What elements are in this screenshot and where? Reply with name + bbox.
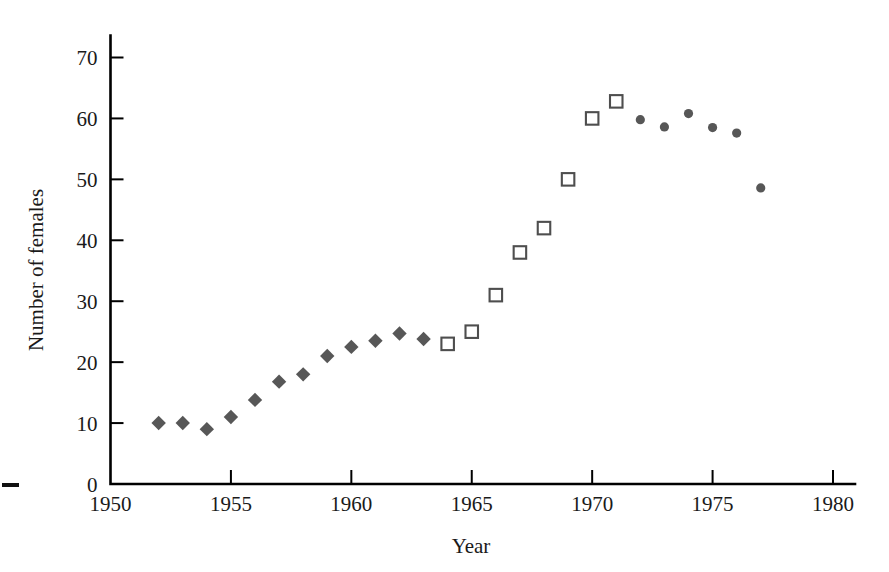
data-point-circle (732, 128, 741, 137)
data-point-square (466, 325, 479, 338)
y-axis-ticks: 010203040506070 (77, 46, 124, 497)
data-point-square (586, 112, 599, 125)
x-axis-label: Year (452, 534, 491, 558)
x-tick-label: 1980 (812, 492, 854, 516)
data-point-circle (636, 115, 645, 124)
y-tick-label: 20 (77, 351, 98, 375)
scan-edge-artifact (2, 483, 19, 487)
data-point-diamond (272, 374, 286, 388)
data-point-diamond (224, 410, 238, 424)
y-tick-label: 60 (77, 107, 98, 131)
data-point-diamond (416, 332, 430, 346)
y-tick-label: 10 (77, 412, 98, 436)
scatter-plot-figure: 010203040506070 195019551960196519701975… (0, 0, 889, 572)
plot-canvas: 010203040506070 195019551960196519701975… (0, 0, 889, 572)
data-point-diamond (176, 416, 190, 430)
x-tick-label: 1970 (571, 492, 613, 516)
x-tick-label: 1950 (90, 492, 132, 516)
data-point-diamond (368, 334, 382, 348)
x-tick-label: 1960 (330, 492, 372, 516)
data-point-diamond (296, 367, 310, 381)
data-point-circle (684, 109, 693, 118)
data-point-diamond (248, 393, 262, 407)
data-point-diamond (200, 422, 214, 436)
data-point-diamond (392, 326, 406, 340)
data-point-diamond (344, 340, 358, 354)
data-point-square (514, 246, 527, 259)
y-tick-label: 40 (77, 229, 98, 253)
data-markers (151, 95, 765, 436)
axis-lines (111, 36, 856, 485)
data-point-square (490, 289, 503, 302)
data-point-square (562, 173, 575, 186)
y-axis-label: Number of females (24, 189, 48, 351)
y-tick-label: 50 (77, 168, 98, 192)
data-point-square (538, 222, 551, 235)
data-point-circle (756, 183, 765, 192)
y-tick-label: 70 (77, 46, 98, 70)
x-tick-label: 1975 (692, 492, 734, 516)
data-point-diamond (151, 416, 165, 430)
data-point-square (610, 95, 623, 108)
x-tick-label: 1955 (210, 492, 252, 516)
data-point-circle (708, 123, 717, 132)
x-tick-label: 1965 (451, 492, 493, 516)
data-point-square (441, 338, 454, 351)
data-point-circle (660, 122, 669, 131)
x-axis-ticks: 1950195519601965197019751980 (90, 470, 855, 516)
y-tick-label: 30 (77, 290, 98, 314)
data-point-diamond (320, 349, 334, 363)
